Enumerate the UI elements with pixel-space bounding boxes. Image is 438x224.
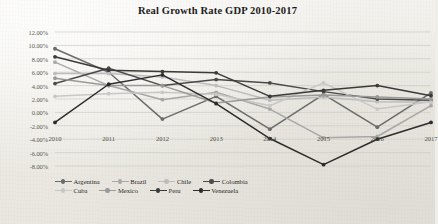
- data-point-venezuela: [161, 73, 165, 77]
- data-point-peru: [322, 88, 326, 92]
- legend-item-argentina[interactable]: Argentina: [55, 178, 100, 185]
- legend-row: CubaMexicoPeruVenezuela: [55, 187, 431, 194]
- data-point-cuba: [161, 90, 165, 94]
- data-point-mexico: [375, 95, 379, 99]
- x-axis-labels: 20102011201220132014201520162017: [0, 135, 435, 147]
- data-point-cuba: [214, 92, 218, 96]
- data-point-peru: [53, 55, 57, 59]
- series-line-venezuela: [55, 75, 431, 165]
- x-axis-tick-label: 2011: [102, 135, 115, 142]
- legend-item-peru[interactable]: Peru: [150, 187, 181, 194]
- legend-swatch-icon: [55, 178, 72, 185]
- data-point-argentina: [268, 127, 272, 131]
- data-point-cuba: [268, 104, 272, 108]
- data-point-brazil: [161, 98, 165, 102]
- data-point-cuba: [53, 94, 57, 98]
- data-point-mexico: [161, 84, 165, 88]
- data-point-chile: [214, 84, 218, 88]
- data-point-peru: [161, 70, 165, 74]
- x-axis-tick-label: 2014: [263, 135, 276, 142]
- legend-label: Mexico: [118, 187, 138, 194]
- data-point-peru: [107, 68, 111, 72]
- data-point-argentina: [375, 125, 379, 129]
- legend-label: Venezuela: [211, 187, 238, 194]
- data-point-mexico: [53, 76, 57, 80]
- data-point-peru: [214, 71, 218, 75]
- series-line-argentina: [55, 49, 431, 129]
- data-point-peru: [375, 84, 379, 88]
- data-point-cuba: [107, 92, 111, 96]
- legend-swatch-icon: [112, 178, 129, 185]
- legend-swatch-icon: [193, 187, 210, 194]
- legend-swatch-icon: [55, 187, 72, 194]
- legend-item-mexico[interactable]: Mexico: [99, 187, 138, 194]
- x-axis-tick-label: 2010: [49, 135, 62, 142]
- data-point-brazil: [53, 60, 57, 64]
- legend-label: Brazil: [130, 178, 146, 185]
- chart-legend: ArgentinaBrazilChileColombiaCubaMexicoPe…: [55, 178, 431, 194]
- legend-swatch-icon: [158, 178, 175, 185]
- legend-swatch-icon: [203, 178, 220, 185]
- data-point-venezuela: [107, 82, 111, 86]
- data-point-chile: [107, 72, 111, 76]
- legend-label: Colombia: [222, 178, 248, 185]
- data-point-colombia: [268, 81, 272, 85]
- legend-label: Cuba: [74, 187, 88, 194]
- legend-item-chile[interactable]: Chile: [158, 178, 191, 185]
- legend-item-cuba[interactable]: Cuba: [55, 187, 87, 194]
- legend-item-colombia[interactable]: Colombia: [203, 178, 248, 185]
- data-point-chile: [268, 98, 272, 102]
- legend-label: Peru: [169, 187, 181, 194]
- data-point-colombia: [214, 78, 218, 82]
- legend-label: Argentina: [74, 178, 100, 185]
- data-point-brazil: [429, 104, 433, 108]
- x-axis-tick-label: 2015: [317, 135, 330, 142]
- data-point-brazil: [268, 107, 272, 111]
- data-point-argentina: [161, 117, 165, 121]
- x-axis-tick-label: 2012: [156, 135, 169, 142]
- data-point-peru: [429, 94, 433, 98]
- legend-swatch-icon: [150, 187, 167, 194]
- x-axis-tick-label: 2017: [425, 135, 438, 142]
- x-axis-tick-label: 2016: [371, 135, 384, 142]
- data-point-cuba: [322, 81, 326, 85]
- data-point-venezuela: [214, 102, 218, 106]
- data-point-venezuela: [322, 163, 326, 167]
- legend-label: Chile: [177, 178, 191, 185]
- data-point-peru: [268, 94, 272, 98]
- data-point-mexico: [429, 97, 433, 101]
- data-point-argentina: [53, 47, 57, 51]
- data-point-mexico: [322, 93, 326, 97]
- data-point-chile: [53, 72, 57, 76]
- data-point-venezuela: [53, 121, 57, 125]
- legend-row: ArgentinaBrazilChileColombia: [55, 178, 431, 185]
- series-line-peru: [55, 57, 431, 97]
- legend-swatch-icon: [99, 187, 116, 194]
- x-axis-tick-label: 2013: [210, 135, 223, 142]
- legend-item-brazil[interactable]: Brazil: [112, 178, 147, 185]
- data-point-venezuela: [429, 121, 433, 125]
- data-point-cuba: [375, 107, 379, 111]
- data-point-colombia: [53, 82, 57, 86]
- legend-item-venezuela[interactable]: Venezuela: [193, 187, 239, 194]
